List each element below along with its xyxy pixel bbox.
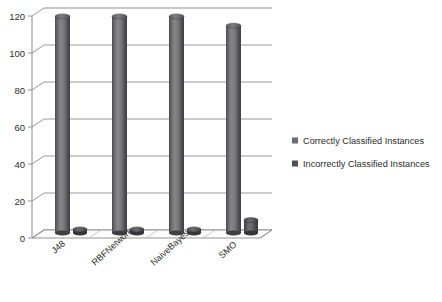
x-category-label-smo: SMO — [217, 239, 239, 260]
legend-entry-correctly-classified[interactable]: Correctly Classified Instances — [292, 136, 424, 146]
bar-group-naivebayes — [169, 14, 201, 236]
legend-label-incorrectly-classified: Incorrectly Classified Instances — [303, 159, 430, 169]
y-tick-label-60: 60 — [14, 122, 25, 133]
legend-entry-incorrectly-classified[interactable]: Incorrectly Classified Instances — [292, 159, 430, 169]
bar-chart-3d: 120 100 80 60 40 20 0 J48 RBFNetwork Nai… — [0, 0, 442, 302]
legend-swatch-icon — [292, 161, 298, 167]
y-tick-label-120: 120 — [9, 11, 25, 22]
bar-j48-incorrect — [73, 227, 87, 236]
chart-container: 120 100 80 60 40 20 0 J48 RBFNetwork Nai… — [0, 0, 442, 302]
legend-swatch-icon — [292, 138, 298, 144]
bar-j48-correct — [55, 14, 70, 236]
bar-group-smo — [226, 23, 258, 235]
bar-rbfnetwork-correct — [112, 14, 127, 236]
y-tick-label-100: 100 — [9, 48, 25, 59]
chart-legend: Correctly Classified Instances Incorrect… — [292, 136, 430, 169]
bar-smo-correct — [226, 23, 241, 235]
bar-smo-incorrect — [244, 218, 258, 236]
y-tick-label-80: 80 — [14, 85, 25, 96]
y-tick-label-40: 40 — [14, 159, 25, 170]
legend-label-correctly-classified: Correctly Classified Instances — [303, 136, 424, 146]
y-axis — [28, 8, 44, 238]
y-tick-label-20: 20 — [14, 196, 25, 207]
bar-group-rbfnetwork — [112, 14, 144, 236]
bar-group-j48 — [55, 14, 87, 236]
bar-naivebayes-correct — [169, 14, 184, 236]
x-category-label-j48: J48 — [50, 238, 67, 255]
y-tick-label-0: 0 — [20, 233, 25, 244]
